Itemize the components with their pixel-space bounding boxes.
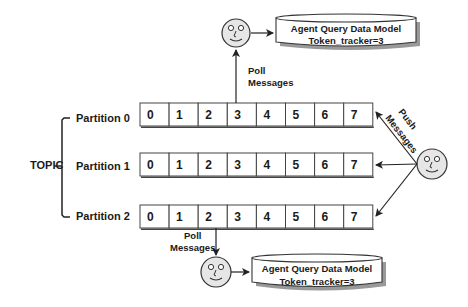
offset-cell-label: 6 xyxy=(322,108,329,122)
offset-cell xyxy=(227,205,256,228)
offset-cell xyxy=(286,205,315,228)
offset-cell-label: 4 xyxy=(263,108,270,122)
offset-cell-label: 2 xyxy=(205,108,212,122)
partition-2-label: Partition 2 xyxy=(76,210,130,222)
offset-cell xyxy=(315,153,344,176)
offset-cell xyxy=(256,153,285,176)
offset-cell xyxy=(140,205,169,228)
top-consumer-smiley-face-icon xyxy=(222,19,250,47)
offset-cell xyxy=(286,153,315,176)
bottom-db-line2: Token_tracker=3 xyxy=(279,276,354,287)
offset-cell-label: 0 xyxy=(147,158,154,172)
offset-cell-label: 6 xyxy=(322,158,329,172)
push-arrow-partition-1 xyxy=(376,164,417,165)
offset-cell xyxy=(198,153,227,176)
top-db-line1: Agent Query Data Model xyxy=(291,23,401,34)
bottom-db-line1: Agent Query Data Model xyxy=(262,263,372,274)
top-poll-label-1: Poll xyxy=(248,65,265,76)
offset-cell xyxy=(169,103,198,126)
offset-cell-label: 4 xyxy=(263,158,270,172)
offset-cell-label: 2 xyxy=(205,210,212,224)
offset-cell-label: 2 xyxy=(205,158,212,172)
push-arrow-partition-2 xyxy=(376,164,417,216)
offset-cell-label: 1 xyxy=(176,108,183,122)
offset-cell-label: 7 xyxy=(351,210,358,224)
offset-cell xyxy=(140,153,169,176)
topic-label: TOPIC xyxy=(30,159,63,171)
partition-1-log: 01234567 xyxy=(140,153,374,177)
offset-cell-label: 3 xyxy=(234,158,241,172)
partition-1-label: Partition 1 xyxy=(76,160,130,172)
bottom-poll-label-1: Poll xyxy=(184,230,201,241)
offset-cell-label: 6 xyxy=(322,210,329,224)
offset-cell-label: 5 xyxy=(293,108,300,122)
kafka-topic-diagram: TOPIC Partition 0 Partition 1 Partition … xyxy=(0,0,468,307)
offset-cell xyxy=(315,205,344,228)
offset-cell xyxy=(169,153,198,176)
bottom-poll-label-2: Messages xyxy=(170,242,215,253)
offset-cell-label: 0 xyxy=(147,210,154,224)
offset-cell xyxy=(198,103,227,126)
offset-cell xyxy=(227,153,256,176)
offset-cell-label: 7 xyxy=(351,158,358,172)
offset-cell xyxy=(344,153,373,176)
offset-cell-label: 4 xyxy=(263,210,270,224)
offset-cell xyxy=(169,205,198,228)
offset-cell-label: 5 xyxy=(293,210,300,224)
offset-cell xyxy=(315,103,344,126)
partition-2-log: 01234567 xyxy=(140,205,374,229)
partition-0-log: 01234567 xyxy=(140,103,374,127)
partition-0-label: Partition 0 xyxy=(76,112,130,124)
offset-cell-label: 7 xyxy=(351,108,358,122)
offset-cell-label: 1 xyxy=(176,210,183,224)
offset-cell-label: 3 xyxy=(234,108,241,122)
offset-cell-label: 0 xyxy=(147,108,154,122)
offset-cell-label: 1 xyxy=(176,158,183,172)
offset-cell xyxy=(344,205,373,228)
bottom-consumer-smiley-face-icon xyxy=(201,257,231,287)
offset-cell xyxy=(227,103,256,126)
offset-cell-label: 5 xyxy=(293,158,300,172)
bottom-db-cylinder: Agent Query Data Model Token_tracker=3 xyxy=(252,254,386,291)
top-db-cylinder: Agent Query Data Model Token_tracker=3 xyxy=(276,14,420,50)
offset-cell xyxy=(256,103,285,126)
top-db-line2: Token_tracker=3 xyxy=(308,35,383,46)
offset-cell xyxy=(286,103,315,126)
offset-cell xyxy=(256,205,285,228)
offset-cell xyxy=(198,205,227,228)
offset-cell xyxy=(140,103,169,126)
top-poll-label-2: Messages xyxy=(248,77,293,88)
producer-smiley-face-icon xyxy=(417,149,447,179)
offset-cell xyxy=(344,103,373,126)
offset-cell-label: 3 xyxy=(234,210,241,224)
